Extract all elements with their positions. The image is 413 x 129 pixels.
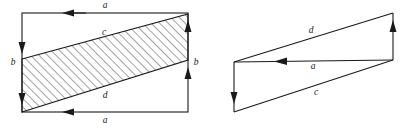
label-b-left: b	[11, 57, 16, 67]
arrow-b-right-lower	[185, 67, 192, 79]
arrow-a	[274, 58, 287, 66]
arrow-b-right	[390, 20, 397, 32]
label-b-right: b	[194, 57, 199, 67]
arrow-a-bottom	[62, 109, 74, 116]
figure-root: a c b b d a d a c	[0, 0, 413, 129]
arrow-b-left-upper	[19, 42, 26, 54]
left-panel: a c b b d a	[11, 0, 199, 125]
label-a-top: a	[103, 0, 108, 10]
geometry-diagram-svg: a c b b d a d a c	[0, 0, 413, 129]
label-a-right: a	[311, 61, 316, 71]
arrow-b-left	[231, 92, 238, 104]
label-d-right: d	[309, 25, 314, 35]
arrow-a-top	[62, 10, 86, 17]
label-a-bottom: a	[103, 115, 108, 125]
label-d: d	[103, 90, 108, 100]
label-c-right: c	[314, 87, 319, 97]
right-panel: d a c	[231, 13, 397, 112]
edge-d	[234, 13, 393, 62]
